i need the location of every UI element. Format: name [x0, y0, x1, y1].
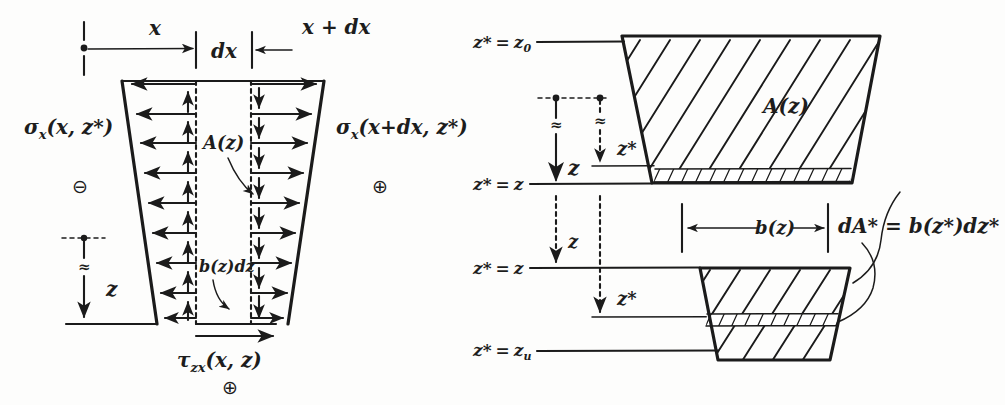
width-label: b(z)	[755, 217, 795, 238]
differential-area-label: dA* = b(z*)dz*	[838, 214, 1000, 238]
level-zu1-rhs: z	[513, 174, 524, 194]
dimension-x-plus-dx: x + dx	[256, 15, 372, 50]
depth-star-label-lower: z*	[616, 288, 637, 309]
dimension-x-plus-dx-label: x + dx	[301, 15, 372, 39]
upper-trapezoid-outline	[622, 36, 880, 183]
area-label-right: A(z)	[761, 94, 809, 118]
svg-text:z*: z*	[616, 288, 637, 309]
level-zl-rhs: z	[513, 258, 524, 278]
depth-measure-z-lower: z	[556, 196, 579, 262]
svg-text:τzx(x, z): τzx(x, z)	[177, 348, 262, 375]
figure-canvas: x dx x + dx	[0, 0, 1005, 405]
level-z0-rhs: z	[513, 32, 524, 52]
level-z-upper: z*=z	[472, 174, 652, 194]
depth-measure-z-upper: ≈ z	[538, 95, 607, 180]
differential-area-callout: dA* = b(z*)dz*	[838, 192, 1000, 322]
stress-arrows-left	[132, 84, 196, 318]
sigma-right-args: (x+dx, z*)	[359, 115, 468, 139]
sketch-svg: x dx x + dx	[0, 0, 1005, 405]
dimension-x: x	[88, 16, 193, 49]
sign-positive-symbol-right: ⊕	[372, 175, 388, 197]
level-zu: z*=zu	[472, 340, 718, 363]
level-z0: z*=z0	[472, 32, 624, 55]
tau-args: (x, z)	[206, 348, 262, 372]
level-z0-lhs: z*	[472, 32, 492, 52]
depth-star-label-upper: z*	[616, 138, 637, 159]
level-zl-lhs: z*	[472, 258, 492, 278]
tau-sub: zx	[189, 360, 205, 375]
stress-label-left: σx(x, z*)	[24, 115, 113, 142]
strip-label-left: b(z)dz	[199, 257, 256, 276]
level-zu-lhs: z*	[472, 340, 492, 360]
sigma-right-glyph: σ	[336, 115, 351, 139]
break-symbol-z-upper: ≈	[550, 116, 563, 134]
depth-measure-zstar-lower: z*	[600, 196, 637, 312]
tau-glyph: τ	[177, 348, 191, 372]
svg-text:z*=z: z*=z	[472, 174, 524, 194]
level-zu-rhs: z	[513, 340, 524, 360]
differential-area-band-upper	[650, 164, 858, 190]
svg-text:z*: z*	[616, 138, 637, 159]
sigma-left-args: (x, z*)	[47, 115, 114, 139]
break-symbol-left: ≈	[78, 258, 91, 276]
level-z0-sub: 0	[523, 42, 531, 55]
svg-text:σx(x+dx, z*): σx(x+dx, z*)	[336, 115, 468, 142]
level-zl-eq: =	[496, 258, 510, 278]
dimension-dx-label: dx	[211, 39, 238, 63]
level-z-lower: z*=z	[472, 258, 700, 278]
sign-negative-symbol: ⊖	[72, 175, 88, 197]
depth-measure-left: ≈ z	[62, 235, 118, 317]
shear-label: τzx(x, z)	[177, 348, 262, 375]
sign-positive-symbol-bottom: ⊕	[222, 376, 238, 398]
break-symbol-zstar-upper: ≈	[594, 112, 607, 130]
dimension-x-label: x	[148, 16, 162, 40]
level-zu-sub: u	[523, 350, 531, 363]
sigma-left-glyph: σ	[24, 115, 39, 139]
area-callout-left: A(z)	[201, 132, 253, 194]
level-z0-eq: =	[496, 32, 510, 52]
origin-datum-tick	[81, 22, 88, 75]
strip-callout-left: b(z)dz	[199, 257, 256, 309]
svg-text:z*=z: z*=z	[472, 258, 524, 278]
level-zu-eq: =	[496, 340, 510, 360]
sigma-right-sub: x	[350, 127, 359, 142]
depth-label-z-lower: z	[567, 231, 579, 252]
stress-label-right: σx(x+dx, z*)	[336, 115, 468, 142]
sigma-left-sub: x	[38, 127, 47, 142]
svg-text:z*=zu: z*=zu	[472, 340, 531, 363]
svg-text:z*=z0: z*=z0	[472, 32, 531, 55]
right-panel: z*=z0 z*=z z*=z z*=zu	[472, 32, 1000, 380]
left-panel: x dx x + dx	[24, 15, 468, 398]
width-dimension: b(z)	[682, 204, 828, 252]
level-zu1-lhs: z*	[472, 174, 492, 194]
area-label-left: A(z)	[201, 132, 244, 153]
cross-section-lower	[640, 268, 890, 380]
depth-measure-zstar-upper: ≈ z*	[594, 100, 637, 162]
depth-label-left: z	[105, 277, 118, 301]
svg-text:σx(x, z*): σx(x, z*)	[24, 115, 113, 142]
level-zu1-eq: =	[496, 174, 510, 194]
depth-label-z-upper: z	[567, 156, 580, 180]
